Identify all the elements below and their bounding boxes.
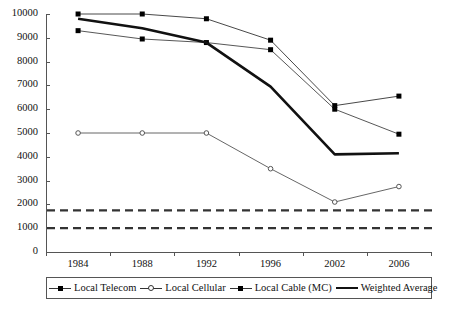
data-point-marker: [397, 184, 402, 189]
series-line: [78, 133, 399, 202]
data-series-group: [76, 12, 402, 205]
chart-figure: 0100020003000400050006000700080009000100…: [0, 0, 455, 318]
chart-legend: Local TelecomLocal CellularLocal Cable (…: [46, 277, 432, 299]
legend-symbol-icon: [140, 283, 162, 293]
data-point-marker: [396, 94, 401, 99]
data-point-marker: [204, 16, 209, 21]
data-point-marker: [76, 131, 81, 136]
data-point-marker: [396, 132, 401, 137]
data-point-marker: [268, 166, 273, 171]
legend-label: Local Cellular: [165, 282, 225, 294]
legend-label: Local Telecom: [74, 282, 136, 294]
data-point-marker: [268, 38, 273, 43]
data-point-marker: [140, 36, 145, 41]
series-weighted-average: [78, 19, 399, 155]
legend-label: Weighted Average: [361, 282, 438, 294]
legend-label: Local Cable (MC): [255, 282, 332, 294]
data-point-marker: [76, 28, 81, 33]
data-point-marker: [268, 47, 273, 52]
legend-symbol-icon: [49, 283, 71, 293]
series-local-cellular: [76, 131, 401, 205]
data-point-marker: [140, 131, 145, 136]
legend-item[interactable]: Local Cable (MC): [228, 282, 334, 294]
legend-item[interactable]: Local Cellular: [138, 282, 227, 294]
series-line: [78, 14, 399, 106]
data-point-marker: [76, 12, 81, 17]
data-point-marker: [332, 107, 337, 112]
series-local-cable-mc: [76, 28, 402, 137]
series-line: [78, 31, 399, 135]
series-line: [78, 19, 399, 155]
data-point-marker: [204, 131, 209, 136]
data-point-marker: [332, 200, 337, 205]
series-canvas: [0, 0, 455, 318]
legend-item[interactable]: Local Telecom: [47, 282, 138, 294]
legend-symbol-icon: [230, 283, 252, 293]
legend-symbol-icon: [336, 283, 358, 293]
data-point-marker: [140, 12, 145, 17]
reference-lines-group: [47, 210, 432, 228]
legend-item[interactable]: Weighted Average: [334, 282, 440, 294]
